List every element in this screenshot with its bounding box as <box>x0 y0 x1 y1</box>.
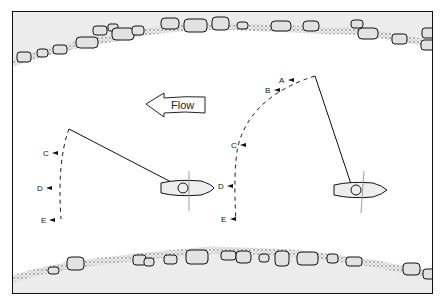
top-riverbank <box>13 12 433 63</box>
svg-text:D: D <box>37 184 43 193</box>
svg-text:E: E <box>41 216 46 225</box>
bottom-riverbank <box>13 250 433 294</box>
right-anchor-scenario: A B C D E <box>218 76 387 224</box>
svg-text:A: A <box>279 76 285 85</box>
svg-text:C: C <box>231 141 237 150</box>
svg-text:E: E <box>221 215 226 224</box>
boat-left <box>161 171 214 211</box>
svg-text:D: D <box>218 182 224 191</box>
svg-text:B: B <box>265 86 270 95</box>
left-anchor-scenario: C D E <box>37 129 214 225</box>
svg-text:C: C <box>43 149 49 158</box>
diagram-frame: Flow C D E A B C D E <box>12 11 433 294</box>
flow-arrow: Flow <box>146 93 205 117</box>
flow-label: Flow <box>171 99 194 111</box>
river-diagram: Flow C D E A B C D E <box>13 12 433 294</box>
boat-right <box>334 171 387 213</box>
